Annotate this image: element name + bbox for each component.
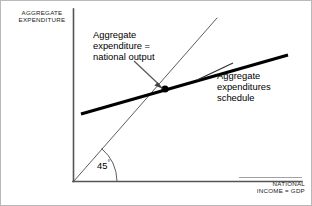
angle-value: 45 [97,160,107,171]
x-axis-title: NATIONAL INCOME = GDP [239,180,305,195]
equilibrium-callout-arrow [134,61,164,89]
equilibrium-annotation-label: Aggregate expenditure = national output [93,29,188,62]
aggregate-expenditures-schedule-label: Aggregate expenditures schedule [217,70,309,103]
degree-symbol-icon: ° [107,159,110,166]
angle-label: 45° [97,160,110,171]
y-axis-title: AGGREGATE EXPENDITURE [13,9,71,24]
equilibrium-point-marker [161,85,168,92]
keynesian-cross-figure: AGGREGATE EXPENDITURE NATIONAL INCOME = … [0,0,312,206]
